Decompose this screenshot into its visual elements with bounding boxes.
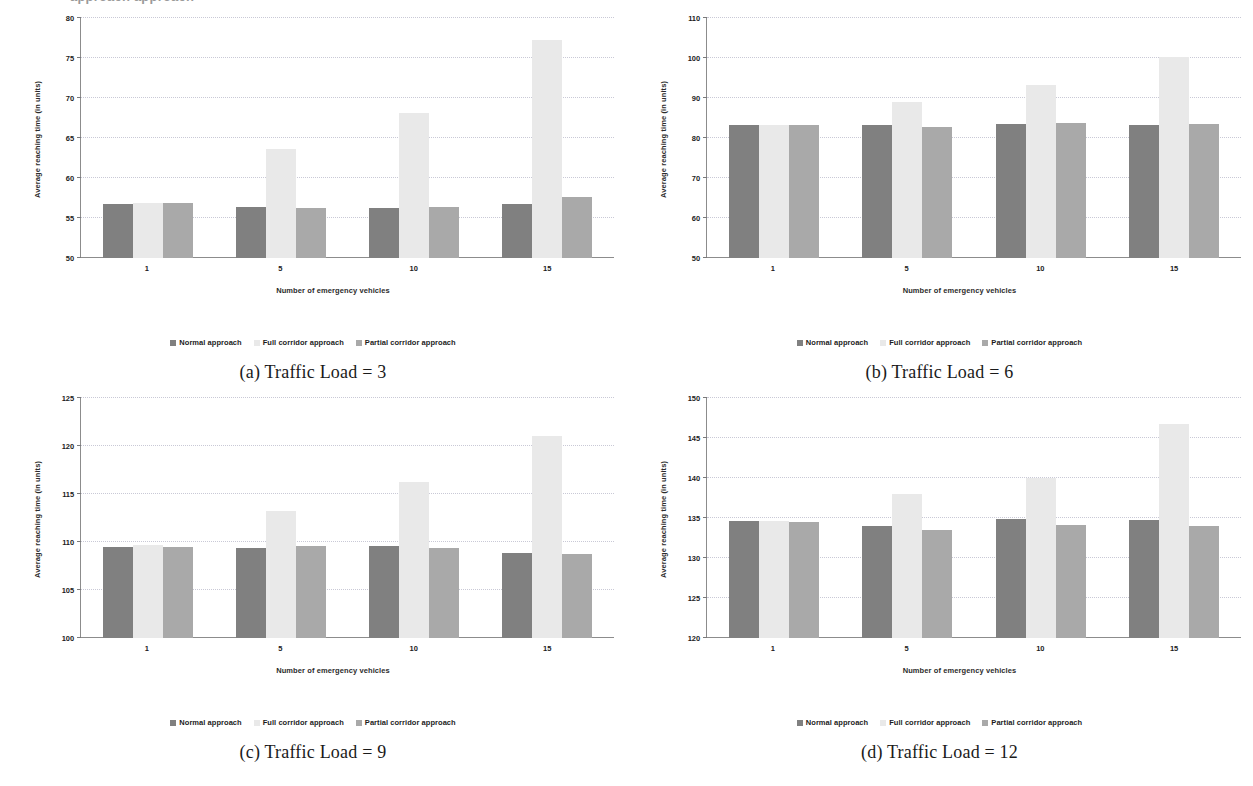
x-axis-title: Number of emergency vehicles	[678, 666, 1241, 675]
bar	[296, 208, 326, 258]
legend-swatch-icon	[356, 340, 362, 346]
x-tick-labels: 151015	[80, 644, 614, 658]
x-tick-label: 1	[80, 644, 214, 658]
x-tick-labels: 151015	[80, 264, 614, 278]
y-tick-label: 125	[688, 594, 700, 603]
legend-label: Partial corridor approach	[991, 718, 1082, 727]
bar	[1026, 85, 1056, 258]
y-tick-label: 60	[692, 214, 700, 223]
bars-layer	[707, 398, 1241, 638]
legend-item: Full corridor approach	[880, 718, 970, 727]
bar-group	[214, 18, 347, 258]
bar	[399, 482, 429, 638]
panel-caption-d: (d) Traffic Load = 12	[626, 742, 1253, 763]
chart-area-c: Average reaching time (in units)10010511…	[0, 394, 626, 694]
x-tick-labels: 151015	[706, 264, 1241, 278]
y-tick-label: 75	[66, 54, 74, 63]
bar	[862, 125, 892, 258]
bar	[236, 207, 266, 258]
plot-wrap: 120125130135140145150	[678, 398, 1241, 638]
bar	[759, 521, 789, 638]
x-tick-label: 5	[840, 264, 974, 278]
legend-swatch-icon	[880, 340, 886, 346]
legend-label: Normal approach	[806, 718, 868, 727]
y-axis-title: Average reaching time (in units)	[656, 14, 672, 264]
y-tick-label: 70	[692, 174, 700, 183]
bar	[399, 113, 429, 258]
bar	[103, 547, 133, 638]
x-axis-title: Number of emergency vehicles	[678, 286, 1241, 295]
bar	[369, 546, 399, 638]
x-tick-label: 10	[974, 644, 1108, 658]
legend-item: Partial corridor approach	[982, 718, 1082, 727]
bar	[502, 204, 532, 258]
bar	[729, 125, 759, 258]
chart-legend: Normal approachFull corridor approachPar…	[0, 338, 626, 347]
legend-swatch-icon	[170, 340, 176, 346]
legend-item: Normal approach	[797, 338, 868, 347]
legend-label: Full corridor approach	[889, 338, 970, 347]
y-tick-label: 50	[66, 254, 74, 263]
bar-group	[348, 398, 481, 638]
bar-group	[974, 18, 1108, 258]
y-tick-label: 80	[66, 14, 74, 23]
chart-panel-d: Average reaching time (in units)12012513…	[626, 394, 1253, 774]
x-axis-title: Number of emergency vehicles	[52, 286, 614, 295]
plot-area	[80, 398, 614, 638]
plot-wrap: 5060708090100110	[678, 18, 1241, 258]
chart-panel-b: Average reaching time (in units)50607080…	[626, 14, 1253, 394]
panel-caption-b: (b) Traffic Load = 6	[626, 362, 1253, 383]
legend-swatch-icon	[797, 720, 803, 726]
bar	[236, 548, 266, 638]
legend-label: Partial corridor approach	[365, 338, 456, 347]
y-tick-label: 80	[692, 134, 700, 143]
bar	[789, 522, 819, 638]
plot-wrap: 100105110115120125	[52, 398, 614, 638]
legend-label: Full corridor approach	[263, 718, 344, 727]
y-tick-label: 100	[62, 634, 74, 643]
x-tick-labels: 151015	[706, 644, 1241, 658]
scan-bottom-artifact	[0, 776, 1253, 786]
bar	[103, 204, 133, 258]
legend-swatch-icon	[982, 340, 988, 346]
x-tick-label: 15	[1107, 264, 1241, 278]
bar	[266, 511, 296, 638]
bar	[1159, 424, 1189, 638]
legend-label: Partial corridor approach	[991, 338, 1082, 347]
bar-group	[841, 398, 975, 638]
plot-area	[80, 18, 614, 258]
legend-item: Normal approach	[170, 338, 241, 347]
legend-item: Partial corridor approach	[982, 338, 1082, 347]
x-tick-label: 5	[214, 264, 348, 278]
bar-group	[81, 18, 214, 258]
chart-panel-a: Average reaching time (in units)50556065…	[0, 14, 626, 394]
y-tick-label: 115	[62, 490, 74, 499]
y-tick-label: 130	[688, 554, 700, 563]
bar	[532, 40, 562, 258]
plot-wrap: 50556065707580	[52, 18, 614, 258]
x-axis-title: Number of emergency vehicles	[52, 666, 614, 675]
y-axis-title-label: Average reaching time (in units)	[34, 460, 43, 577]
legend-label: Partial corridor approach	[365, 718, 456, 727]
x-tick-label: 1	[706, 644, 840, 658]
bar	[759, 125, 789, 258]
y-axis-title-label: Average reaching time (in units)	[660, 80, 669, 197]
legend-item: Full corridor approach	[254, 338, 344, 347]
bar	[1056, 123, 1086, 258]
legend-label: Full corridor approach	[889, 718, 970, 727]
y-tick-label: 90	[692, 94, 700, 103]
legend-label: Normal approach	[806, 338, 868, 347]
y-tick-label: 120	[688, 634, 700, 643]
y-tick-labels: 100105110115120125	[52, 398, 78, 638]
chart-legend: Normal approachFull corridor approachPar…	[626, 718, 1253, 727]
y-tick-label: 120	[62, 442, 74, 451]
bar-group	[841, 18, 975, 258]
bar	[922, 127, 952, 258]
y-tick-label: 135	[688, 514, 700, 523]
y-axis-title: Average reaching time (in units)	[30, 14, 46, 264]
y-tick-label: 100	[688, 54, 700, 63]
bar	[1026, 478, 1056, 638]
legend-swatch-icon	[170, 720, 176, 726]
y-tick-labels: 5060708090100110	[678, 18, 704, 258]
y-tick-label: 65	[66, 134, 74, 143]
